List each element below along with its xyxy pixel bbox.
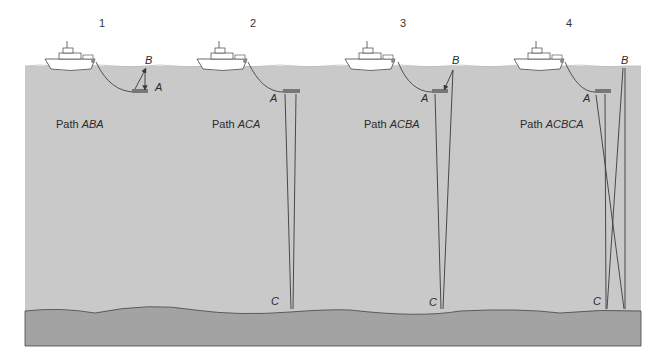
path-label-4: Path ACBCA	[520, 118, 584, 130]
label-a: A	[155, 81, 162, 93]
seafloor	[25, 307, 641, 346]
panel-1-number: 1	[99, 17, 105, 29]
label-a: A	[270, 92, 277, 104]
label-b: B	[452, 54, 459, 66]
path-label-2: Path ACA	[212, 118, 260, 130]
diagram-canvas	[0, 0, 667, 364]
label-b: B	[621, 54, 628, 66]
label-a: A	[583, 92, 590, 104]
label-c: C	[593, 295, 601, 307]
panel-3-number: 3	[400, 17, 406, 29]
path-label-1: Path ABA	[56, 118, 104, 130]
water	[25, 66, 641, 316]
panel-4-number: 4	[566, 17, 572, 29]
label-c: C	[271, 295, 279, 307]
path-label-3: Path ACBA	[364, 118, 420, 130]
label-a: A	[421, 92, 428, 104]
label-b: B	[145, 54, 152, 66]
label-c: C	[429, 296, 437, 308]
panel-2-number: 2	[250, 17, 256, 29]
